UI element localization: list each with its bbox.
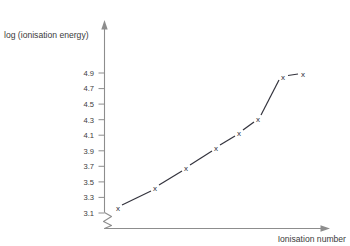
y-tick-label: 3.5 — [83, 178, 94, 187]
data-point-marker[interactable]: x — [281, 73, 285, 82]
data-point-marker[interactable]: x — [256, 115, 260, 124]
data-point-markers: x x x x x x x x — [116, 70, 305, 213]
data-point-marker[interactable]: x — [153, 184, 157, 193]
data-point-marker[interactable]: x — [116, 204, 120, 213]
ionisation-energy-chart: 4.9 4.7 4.5 4.3 4.1 3.9 3.7 3.5 3.3 3.1 … — [0, 0, 350, 246]
data-point-marker[interactable]: x — [237, 129, 241, 138]
y-axis-title: log (ionisation energy) — [4, 30, 89, 40]
y-tick-label: 4.1 — [83, 131, 94, 140]
chart-page: 4.9 4.7 4.5 4.3 4.1 3.9 3.7 3.5 3.3 3.1 … — [0, 0, 350, 246]
y-tick-label: 3.1 — [83, 209, 94, 218]
y-axis — [101, 20, 107, 213]
y-tick-label: 3.3 — [83, 193, 94, 202]
y-tick-label: 4.5 — [83, 100, 94, 109]
x-axis — [116, 225, 330, 231]
y-axis-ticks — [99, 73, 105, 213]
x-axis-title: Ionisation number — [278, 234, 346, 244]
axis-break-zigzag — [104, 213, 117, 229]
y-tick-label: 3.9 — [83, 147, 94, 156]
data-point-marker[interactable]: x — [184, 164, 188, 173]
data-point-marker[interactable]: x — [214, 144, 218, 153]
y-tick-label: 4.3 — [83, 116, 94, 125]
y-axis-tick-labels: 4.9 4.7 4.5 4.3 4.1 3.9 3.7 3.5 3.3 3.1 — [83, 69, 94, 218]
y-tick-label: 4.7 — [83, 84, 94, 93]
y-tick-label: 3.7 — [83, 162, 94, 171]
data-point-marker[interactable]: x — [301, 70, 305, 79]
data-series-line — [122, 74, 298, 205]
y-tick-label: 4.9 — [83, 69, 94, 78]
